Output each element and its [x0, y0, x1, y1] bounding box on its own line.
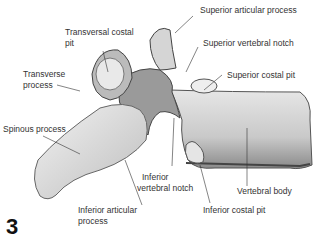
- label-vertebral-body: Vertebral body: [237, 186, 292, 196]
- label-inferior-articular-process-line2: process: [78, 216, 108, 226]
- label-inferior-vertebral-notch-line1: Inferior: [142, 172, 168, 182]
- vertebra-illustration: [0, 0, 320, 241]
- figure-number: 3: [6, 214, 18, 240]
- label-inferior-costal-pit: Inferior costal pit: [203, 205, 265, 215]
- label-transversal-costal-pit-line1: Transversal costal: [65, 27, 134, 37]
- label-inferior-articular-process-line1: Inferior articular: [78, 205, 137, 215]
- label-spinous-process: Spinous process: [3, 124, 66, 134]
- transversal-costal-pit-shape: [96, 58, 124, 90]
- label-superior-vertebral-notch: Superior vertebral notch: [203, 38, 294, 48]
- label-transverse-process-line1: Transverse: [23, 69, 65, 79]
- superior-articular-process-shape: [150, 28, 176, 70]
- label-transversal-costal-pit-line2: pit: [65, 38, 74, 48]
- label-transverse-process-line2: process: [23, 80, 53, 90]
- label-superior-articular-process: Superior articular process: [200, 5, 297, 15]
- label-superior-costal-pit: Superior costal pit: [227, 70, 295, 80]
- superior-costal-pit-shape: [191, 79, 217, 93]
- label-inferior-vertebral-notch-line2: vertebral notch: [137, 183, 193, 193]
- spinous-process-shape: [34, 104, 147, 198]
